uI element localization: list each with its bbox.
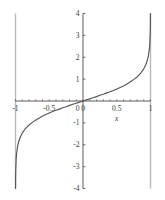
y-tick-label: 2	[76, 53, 80, 62]
y-tick-label: 4	[76, 9, 80, 18]
x-tick-label: 0	[81, 104, 85, 113]
chart-container: -1-0.500.51-4-3-2-112340x	[0, 0, 165, 200]
plot-area: -1-0.500.51-4-3-2-112340x	[0, 0, 165, 200]
y-tick-label: -2	[73, 140, 79, 149]
y-tick-label: 1	[76, 75, 80, 84]
y-tick-label: 3	[76, 31, 80, 40]
x-tick-label: 0.5	[112, 104, 122, 113]
y-tick-label: -3	[73, 162, 79, 171]
origin-label: 0	[76, 104, 80, 113]
x-tick-label: 1	[149, 104, 153, 113]
y-tick-label: -1	[73, 118, 79, 127]
y-tick-label: -4	[73, 184, 79, 193]
x-axis-name: x	[114, 114, 119, 123]
x-tick-label: -1	[12, 104, 18, 113]
